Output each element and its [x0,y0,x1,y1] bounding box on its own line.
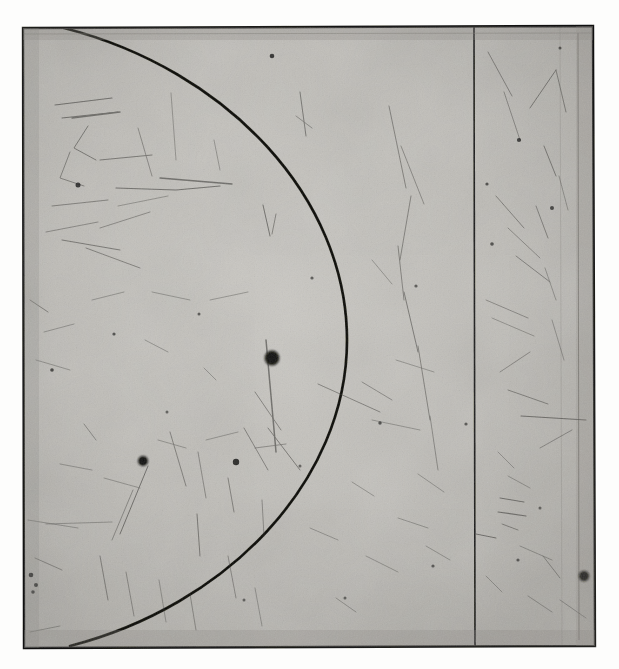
emulsion-grain [23,26,595,648]
plate-scan-image [0,0,619,669]
plate-scan-stage [0,0,619,669]
